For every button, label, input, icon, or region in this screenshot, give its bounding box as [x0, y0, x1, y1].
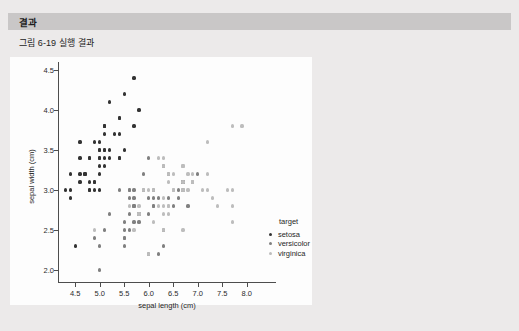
x-axis-spine — [58, 282, 276, 283]
scatter-point-virginica — [162, 228, 165, 231]
scatter-point-virginica — [167, 180, 170, 183]
scatter-point-setosa — [74, 244, 77, 247]
scatter-point-virginica — [157, 156, 160, 159]
scatter-point-versicolor — [137, 220, 140, 223]
scatter-point-virginica — [231, 188, 234, 191]
scatter-point-virginica — [181, 228, 184, 231]
scatter-point-versicolor — [157, 252, 160, 255]
scatter-point-versicolor — [152, 196, 155, 199]
scatter-point-setosa — [78, 180, 81, 183]
scatter-point-versicolor — [147, 212, 150, 215]
scatter-point-virginica — [137, 204, 140, 207]
scatter-point-versicolor — [118, 188, 121, 191]
scatter-point-setosa — [118, 156, 121, 159]
x-axis-tick-mark — [100, 283, 101, 287]
scatter-point-setosa — [137, 108, 140, 111]
scatter-point-setosa — [78, 172, 81, 175]
legend-title: target — [279, 217, 320, 226]
scatter-point-virginica — [167, 212, 170, 215]
scatter-point-versicolor — [172, 204, 175, 207]
scatter-point-virginica — [147, 252, 150, 255]
scatter-point-setosa — [98, 188, 101, 191]
chart-legend: target setosaversicolorvirginica — [268, 217, 320, 258]
scatter-point-setosa — [98, 140, 101, 143]
scatter-point-setosa — [123, 148, 126, 151]
scatter-point-setosa — [103, 156, 106, 159]
scatter-point-virginica — [216, 204, 219, 207]
legend-entries: setosaversicolorvirginica — [268, 230, 320, 259]
x-axis-tick-label: 8.0 — [232, 289, 262, 298]
scatter-point-setosa — [132, 124, 135, 127]
scatter-point-virginica — [162, 212, 165, 215]
scatter-point-setosa — [98, 172, 101, 175]
scatter-point-virginica — [181, 180, 184, 183]
scatter-point-versicolor — [128, 188, 131, 191]
legend-item-label: virginica — [278, 249, 306, 258]
scatter-point-versicolor — [128, 212, 131, 215]
scatter-point-virginica — [167, 204, 170, 207]
legend-item-versicolor[interactable]: versicolor — [268, 239, 320, 249]
scatter-point-virginica — [231, 220, 234, 223]
scatter-point-setosa — [98, 156, 101, 159]
scatter-point-virginica — [152, 188, 155, 191]
legend-item-virginica[interactable]: virginica — [268, 249, 320, 259]
scatter-point-versicolor — [162, 244, 165, 247]
scatter-point-virginica — [162, 164, 165, 167]
scatter-point-setosa — [108, 100, 111, 103]
scatter-point-setosa — [103, 124, 106, 127]
scatter-point-versicolor — [98, 268, 101, 271]
scatter-point-versicolor — [98, 244, 101, 247]
scatter-point-virginica — [132, 228, 135, 231]
scatter-point-setosa — [69, 172, 72, 175]
y-axis-tick-label: 2.0 — [14, 266, 54, 275]
x-axis-title: sepal length (cm) — [58, 301, 276, 310]
scatter-point-versicolor — [177, 188, 180, 191]
scatter-point-versicolor — [132, 188, 135, 191]
x-axis-tick-mark — [198, 283, 199, 287]
y-axis-title: sepal width (cm) — [27, 107, 36, 247]
x-axis-tick-mark — [247, 283, 248, 287]
x-axis-tick-mark — [149, 283, 150, 287]
scatter-point-versicolor — [103, 228, 106, 231]
figure-caption: 그림 6-19 실행 결과 — [19, 36, 94, 49]
scatter-point-versicolor — [157, 196, 160, 199]
scatter-point-versicolor — [123, 220, 126, 223]
y-axis-tick-label: 4.5 — [14, 66, 54, 75]
scatter-point-virginica — [186, 172, 189, 175]
scatter-point-virginica — [162, 204, 165, 207]
scatter-point-virginica — [226, 188, 229, 191]
scatter-point-versicolor — [123, 244, 126, 247]
scatter-point-virginica — [186, 188, 189, 191]
x-axis-tick-mark — [173, 283, 174, 287]
scatter-point-setosa — [103, 148, 106, 151]
legend-item-label: setosa — [278, 230, 300, 239]
scatter-point-virginica — [152, 220, 155, 223]
scatter-point-setosa — [108, 156, 111, 159]
scatter-point-virginica — [162, 196, 165, 199]
scatter-point-versicolor — [177, 196, 180, 199]
scatter-point-setosa — [78, 156, 81, 159]
scatter-point-virginica — [162, 156, 165, 159]
scatter-point-virginica — [206, 172, 209, 175]
scatter-point-versicolor — [147, 196, 150, 199]
scatter-point-versicolor — [128, 228, 131, 231]
x-axis-tick-mark — [124, 283, 125, 287]
scatter-point-virginica — [167, 172, 170, 175]
scatter-point-setosa — [108, 148, 111, 151]
scatter-point-virginica — [206, 140, 209, 143]
scatter-plot-area — [58, 62, 264, 282]
scatter-point-virginica — [211, 196, 214, 199]
legend-marker-icon — [269, 252, 272, 255]
scatter-point-virginica — [231, 124, 234, 127]
scatter-point-setosa — [132, 76, 135, 79]
legend-item-label: versicolor — [278, 239, 310, 248]
scatter-point-versicolor — [132, 196, 135, 199]
scatter-point-versicolor — [108, 212, 111, 215]
legend-item-setosa[interactable]: setosa — [268, 230, 320, 240]
section-header-title: 결과 — [8, 15, 37, 29]
scatter-point-setosa — [98, 164, 101, 167]
scatter-point-versicolor — [186, 204, 189, 207]
scatter-point-versicolor — [123, 228, 126, 231]
x-axis-tick-mark — [75, 283, 76, 287]
scatter-point-virginica — [201, 188, 204, 191]
